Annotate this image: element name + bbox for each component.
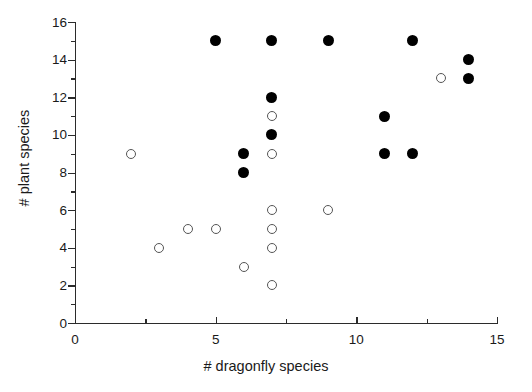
data-point-filled	[266, 92, 277, 103]
y-axis-tick-labels: 0246810121416	[33, 22, 67, 323]
x-axis-tick-labels: 051015	[75, 333, 498, 351]
y-axis-tick-label: 14	[52, 53, 67, 67]
x-axis-tick-label: 5	[212, 333, 220, 347]
x-axis-tick-label: 0	[71, 333, 79, 347]
y-axis-tick-label: 4	[59, 241, 67, 255]
y-axis-tick-label: 0	[59, 317, 67, 331]
y-axis-tick-label: 2	[59, 279, 67, 293]
data-point-filled	[266, 35, 277, 46]
data-point-open	[211, 224, 221, 234]
y-axis-tick	[68, 248, 75, 249]
data-point-filled	[407, 148, 418, 159]
data-point-open	[267, 205, 277, 215]
x-axis-tick	[497, 317, 498, 324]
scatter-plot-figure: 0246810121416 051015 # dragonfly species…	[0, 0, 532, 392]
data-point-open	[267, 243, 277, 253]
data-point-filled	[238, 167, 249, 178]
plot-area	[75, 22, 497, 323]
data-point-filled	[210, 35, 221, 46]
y-axis-tick	[68, 60, 75, 61]
y-axis-tick	[68, 210, 75, 211]
data-point-filled	[266, 129, 277, 140]
data-point-open	[436, 73, 446, 83]
y-axis-tick	[68, 135, 75, 136]
x-axis-tick-label: 15	[489, 333, 504, 347]
data-point-open	[154, 243, 164, 253]
data-point-open	[126, 149, 136, 159]
y-axis-tick-label: 12	[52, 91, 67, 105]
data-point-filled	[379, 111, 390, 122]
data-point-filled	[463, 73, 474, 84]
y-axis-title: # plant species	[16, 58, 32, 258]
data-point-open	[323, 205, 333, 215]
y-axis-tick-label: 8	[59, 166, 67, 180]
x-axis-tick-label: 10	[349, 333, 364, 347]
data-point-filled	[407, 35, 418, 46]
data-point-open	[267, 280, 277, 290]
data-point-open	[267, 149, 277, 159]
y-axis-tick	[68, 323, 75, 324]
data-point-filled	[463, 54, 474, 65]
data-point-open	[267, 111, 277, 121]
y-axis-tick	[68, 285, 75, 286]
y-axis-tick-label: 16	[52, 16, 67, 30]
data-point-filled	[379, 148, 390, 159]
x-axis-title: # dragonfly species	[0, 358, 532, 374]
y-axis-tick	[68, 22, 75, 23]
data-point-open	[183, 224, 193, 234]
data-point-open	[267, 224, 277, 234]
y-axis-tick-label: 6	[59, 204, 67, 218]
y-axis-tick	[68, 173, 75, 174]
data-point-filled	[323, 35, 334, 46]
data-point-open	[239, 262, 249, 272]
y-axis-tick	[68, 97, 75, 98]
y-axis-tick-label: 10	[52, 128, 67, 142]
data-point-filled	[238, 148, 249, 159]
